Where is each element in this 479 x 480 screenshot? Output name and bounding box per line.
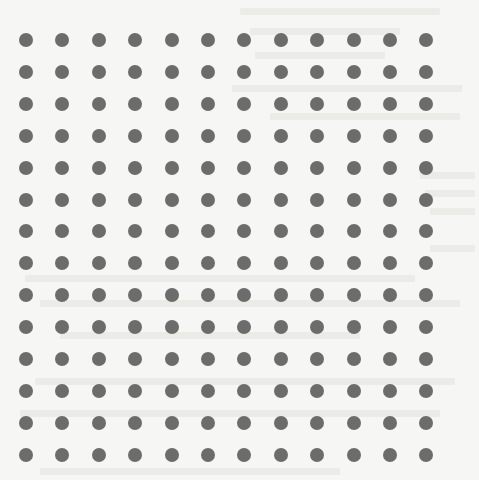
grid-dot [128,448,142,462]
grid-dot [92,161,106,175]
grid-dot [55,161,69,175]
bleed-line [430,208,475,215]
grid-dot [383,161,397,175]
grid-dot [19,161,33,175]
grid-dot [310,416,324,430]
grid-dot [419,193,433,207]
grid-dot [55,416,69,430]
grid-dot [419,33,433,47]
grid-dot [19,65,33,79]
grid-dot [55,224,69,238]
grid-dot [165,384,179,398]
grid-dot [419,224,433,238]
grid-dot [274,193,288,207]
grid-dot [419,161,433,175]
grid-dot [165,320,179,334]
grid-dot [92,193,106,207]
grid-dot [19,352,33,366]
grid-dot [237,193,251,207]
grid-dot [165,256,179,270]
grid-dot [347,320,361,334]
grid-dot [237,256,251,270]
grid-dot [383,256,397,270]
grid-dot [310,320,324,334]
grid-dot [201,416,215,430]
grid-dot [383,320,397,334]
grid-dot [383,224,397,238]
grid-dot [128,97,142,111]
grid-dot [274,33,288,47]
grid-dot [383,97,397,111]
bleed-line [430,245,475,252]
grid-dot [237,288,251,302]
grid-dot [201,224,215,238]
grid-dot [128,161,142,175]
grid-dot [347,33,361,47]
grid-dot [165,224,179,238]
grid-dot [19,320,33,334]
grid-dot [55,65,69,79]
grid-dot [347,161,361,175]
grid-dot [55,33,69,47]
grid-dot [419,65,433,79]
bleed-line [240,8,440,15]
grid-dot [383,288,397,302]
grid-dot [92,256,106,270]
grid-dot [274,384,288,398]
grid-dot [237,416,251,430]
grid-dot [92,384,106,398]
grid-dot [201,65,215,79]
grid-dot [92,448,106,462]
grid-dot [92,352,106,366]
grid-dot [165,65,179,79]
grid-dot [274,320,288,334]
grid-dot [347,288,361,302]
grid-dot [347,97,361,111]
grid-dot [274,97,288,111]
grid-dot [310,288,324,302]
grid-dot [92,288,106,302]
grid-dot [347,129,361,143]
grid-dot [347,416,361,430]
grid-dot [55,288,69,302]
grid-dot [274,416,288,430]
grid-dot [347,224,361,238]
grid-dot [128,352,142,366]
grid-dot [383,352,397,366]
grid-dot [165,161,179,175]
grid-dot [128,65,142,79]
grid-dot [55,256,69,270]
grid-dot [274,129,288,143]
grid-dot [347,193,361,207]
grid-dot [201,256,215,270]
grid-dot [419,384,433,398]
grid-dot [19,224,33,238]
grid-dot [274,448,288,462]
grid-dot [19,416,33,430]
grid-dot [347,65,361,79]
grid-dot [55,129,69,143]
grid-dot [419,320,433,334]
grid-dot [165,448,179,462]
grid-dot [310,193,324,207]
grid-dot [165,97,179,111]
grid-dot [201,193,215,207]
grid-dot [237,65,251,79]
grid-dot [347,448,361,462]
grid-dot [55,352,69,366]
grid-dot [274,224,288,238]
grid-dot [128,384,142,398]
dot-grid-paper [0,0,479,480]
bleed-line [232,85,462,92]
grid-dot [92,129,106,143]
grid-dot [201,320,215,334]
grid-dot [274,288,288,302]
bleed-line [270,113,460,120]
bleed-line [255,52,385,59]
grid-dot [237,129,251,143]
grid-dot [383,384,397,398]
grid-dot [92,97,106,111]
grid-dot [19,193,33,207]
grid-dot [237,97,251,111]
grid-dot [55,448,69,462]
